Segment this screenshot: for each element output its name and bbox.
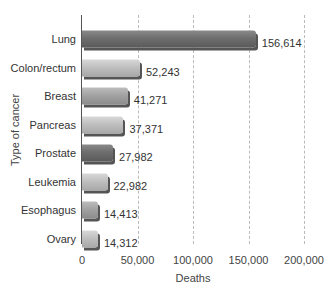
category-label: Lung xyxy=(52,33,76,45)
value-label: 37,371 xyxy=(129,123,163,135)
value-label: 41,271 xyxy=(134,94,168,106)
category-label: Ovary xyxy=(47,233,76,245)
y-axis-label: Type of cancer xyxy=(9,94,21,166)
value-label: 14,312 xyxy=(104,237,138,249)
bar xyxy=(82,173,108,190)
category-label: Colon/rectum xyxy=(11,62,76,74)
bar xyxy=(82,59,140,76)
category-label: Esophagus xyxy=(21,204,76,216)
bar xyxy=(82,230,98,247)
bar xyxy=(82,116,123,133)
category-label: Breast xyxy=(44,90,76,102)
value-label: 52,243 xyxy=(146,66,180,78)
category-label: Prostate xyxy=(35,147,76,159)
x-tick-label: 200,000 xyxy=(284,254,324,266)
value-label: 156,614 xyxy=(262,37,302,49)
gridline xyxy=(304,15,305,244)
bar xyxy=(82,88,128,105)
x-tick-label: 100,000 xyxy=(173,254,213,266)
x-tick-label: 0 xyxy=(79,254,85,266)
category-label: Pancreas xyxy=(30,119,76,131)
value-label: 14,413 xyxy=(104,208,138,220)
bar xyxy=(82,145,113,162)
value-label: 22,982 xyxy=(114,180,148,192)
category-label: Leukemia xyxy=(28,176,76,188)
value-label: 27,982 xyxy=(119,151,153,163)
gridline xyxy=(193,15,194,244)
gridline xyxy=(249,15,250,244)
bar xyxy=(82,202,98,219)
x-tick-label: 50,000 xyxy=(121,254,155,266)
bar xyxy=(82,31,256,48)
x-axis-label: Deaths xyxy=(176,272,211,284)
x-tick-label: 150,000 xyxy=(229,254,269,266)
